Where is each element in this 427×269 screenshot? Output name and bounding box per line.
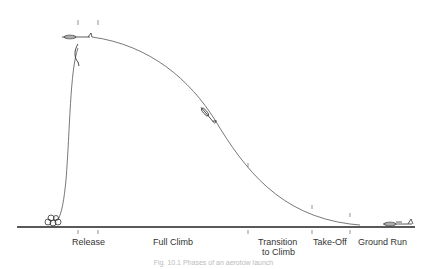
label-release: Release [72, 237, 105, 247]
label-take-off: Take-Off [313, 237, 347, 247]
phase-ticks [78, 230, 350, 234]
aircraft-ground-icon [383, 219, 413, 226]
flight-path-curve [92, 37, 360, 225]
figure-caption: Fig. 10.1 Phases of an aerotow launch [0, 259, 427, 266]
glider-icon-climb [200, 105, 217, 124]
flight-profile-diagram [0, 0, 427, 269]
label-transition-line1: Transition [258, 237, 297, 247]
coiled-rope-icon [45, 215, 61, 226]
label-ground-run: Ground Run [358, 237, 407, 247]
label-full-climb: Full Climb [153, 237, 193, 247]
tow-rope-path [58, 48, 78, 220]
glider-icon-release [62, 33, 92, 39]
label-transition-line2: to Climb [262, 247, 295, 257]
